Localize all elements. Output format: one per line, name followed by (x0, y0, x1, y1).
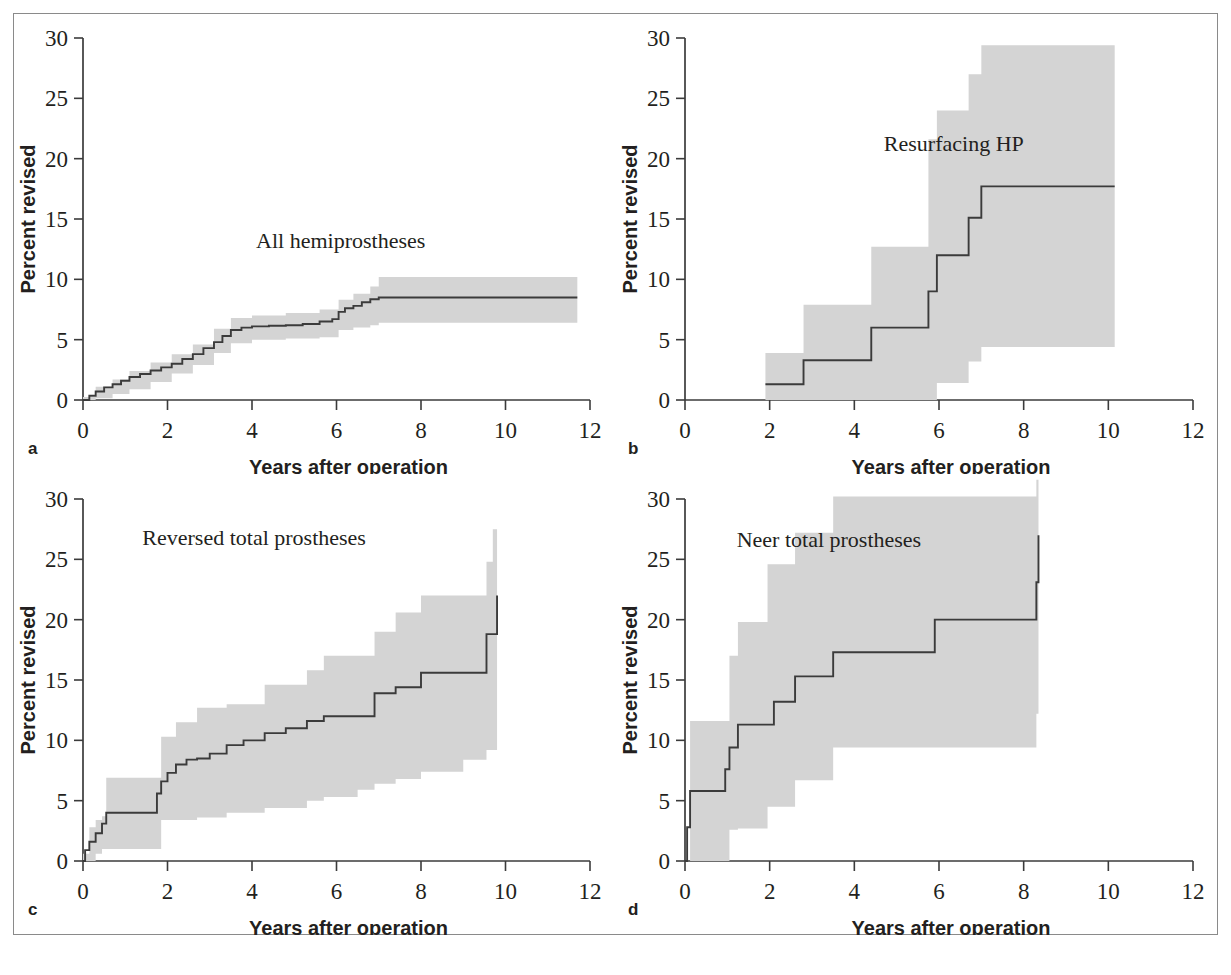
curve-annotation-label: Resurfacing HP (884, 131, 1024, 156)
y-tick-label: 0 (57, 388, 69, 413)
x-tick-label: 10 (1097, 879, 1120, 904)
x-tick-label: 8 (1018, 879, 1030, 904)
x-axis-title: Years after operation (852, 917, 1051, 935)
panel-b: 051015202530024681012Years after operati… (615, 13, 1218, 474)
y-axis-title: Percent revised (17, 606, 39, 755)
x-axis-title: Years after operation (852, 456, 1051, 474)
y-tick-label: 30 (45, 26, 68, 51)
y-tick-label: 30 (647, 26, 670, 51)
y-tick-label: 20 (45, 608, 68, 633)
x-tick-label: 6 (933, 879, 945, 904)
y-tick-label: 25 (45, 547, 68, 572)
y-tick-label: 5 (659, 328, 671, 353)
confidence-interval-band (83, 277, 577, 400)
panel-d-letter: d (628, 901, 638, 918)
y-tick-label: 15 (647, 207, 670, 232)
x-tick-label: 8 (415, 879, 427, 904)
y-tick-label: 25 (647, 547, 670, 572)
x-tick-label: 0 (77, 418, 89, 443)
panel-c-letter: c (28, 901, 37, 918)
y-tick-label: 15 (45, 207, 68, 232)
x-tick-label: 0 (77, 879, 89, 904)
x-tick-label: 4 (246, 879, 258, 904)
y-tick-label: 10 (647, 728, 670, 753)
x-tick-label: 12 (1182, 418, 1205, 443)
panel-a-plot: 051015202530024681012Years after operati… (13, 13, 615, 474)
panel-d-plot: 051015202530024681012Years after operati… (615, 474, 1218, 935)
x-tick-label: 0 (679, 879, 691, 904)
x-tick-label: 10 (494, 879, 517, 904)
y-tick-label: 5 (57, 789, 69, 814)
x-tick-label: 6 (933, 418, 945, 443)
y-tick-label: 5 (659, 789, 671, 814)
panel-c: 051015202530024681012Years after operati… (13, 474, 615, 935)
y-tick-label: 0 (57, 849, 69, 874)
y-tick-label: 0 (659, 388, 671, 413)
x-tick-label: 2 (162, 879, 174, 904)
y-tick-label: 5 (57, 328, 69, 353)
x-tick-label: 4 (849, 879, 861, 904)
y-tick-label: 10 (647, 267, 670, 292)
x-tick-label: 10 (494, 418, 517, 443)
y-tick-label: 15 (45, 668, 68, 693)
y-tick-label: 20 (45, 147, 68, 172)
panel-c-plot: 051015202530024681012Years after operati… (13, 474, 615, 935)
x-tick-label: 12 (579, 418, 602, 443)
confidence-interval-band (765, 45, 1114, 400)
panel-a: 051015202530024681012Years after operati… (13, 13, 615, 474)
curve-annotation-label: Neer total prostheses (737, 527, 922, 552)
x-axis-title: Years after operation (249, 917, 448, 935)
x-tick-label: 2 (764, 418, 776, 443)
x-tick-label: 0 (679, 418, 691, 443)
y-axis-title: Percent revised (619, 145, 641, 294)
y-axis-title: Percent revised (17, 145, 39, 294)
x-axis-title: Years after operation (249, 456, 448, 474)
y-tick-label: 15 (647, 668, 670, 693)
y-tick-label: 20 (647, 147, 670, 172)
y-axis-title: Percent revised (619, 606, 641, 755)
figure-root: 051015202530024681012Years after operati… (0, 0, 1231, 975)
y-tick-label: 0 (659, 849, 671, 874)
panel-d: 051015202530024681012Years after operati… (615, 474, 1218, 935)
y-tick-label: 10 (45, 728, 68, 753)
x-tick-label: 10 (1097, 418, 1120, 443)
x-tick-label: 6 (331, 879, 343, 904)
x-tick-label: 8 (415, 418, 427, 443)
y-tick-label: 20 (647, 608, 670, 633)
x-tick-label: 12 (1182, 879, 1205, 904)
x-tick-label: 4 (849, 418, 861, 443)
x-tick-label: 12 (579, 879, 602, 904)
x-tick-label: 6 (331, 418, 343, 443)
y-tick-label: 30 (647, 487, 670, 512)
x-tick-label: 2 (764, 879, 776, 904)
curve-annotation-label: All hemiprostheses (256, 228, 425, 253)
curve-annotation-label: Reversed total prostheses (142, 525, 366, 550)
y-tick-label: 30 (45, 487, 68, 512)
x-tick-label: 8 (1018, 418, 1030, 443)
y-tick-label: 10 (45, 267, 68, 292)
x-tick-label: 4 (246, 418, 258, 443)
x-tick-label: 2 (162, 418, 174, 443)
y-tick-label: 25 (45, 86, 68, 111)
panel-b-letter: b (628, 440, 638, 457)
panel-a-letter: a (28, 440, 37, 457)
y-tick-label: 25 (647, 86, 670, 111)
panel-b-plot: 051015202530024681012Years after operati… (615, 13, 1218, 474)
